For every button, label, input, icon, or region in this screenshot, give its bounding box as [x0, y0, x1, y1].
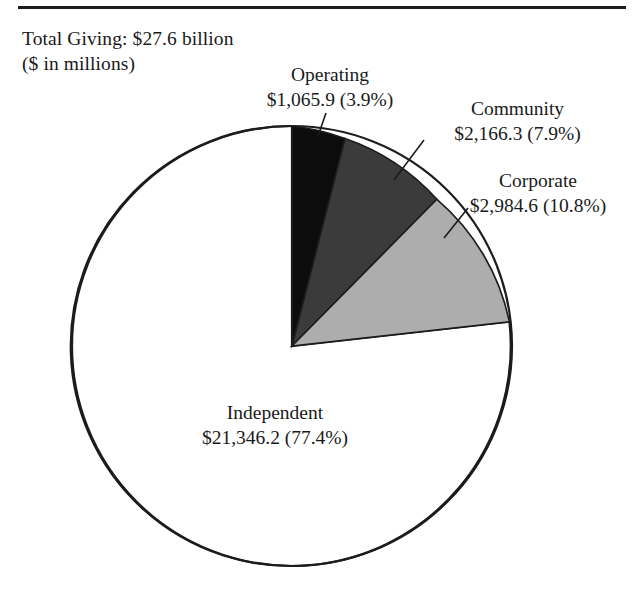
slice-label-corporate-name: Corporate: [438, 168, 638, 193]
slice-label-community-value: $2,166.3 (7.9%): [415, 121, 620, 146]
slice-label-operating-value: $1,065.9 (3.9%): [245, 87, 415, 112]
slice-label-independent-name: Independent: [160, 400, 390, 425]
slice-label-corporate: Corporate $2,984.6 (10.8%): [438, 168, 638, 218]
slice-label-community-name: Community: [415, 96, 620, 121]
slice-label-independent: Independent $21,346.2 (77.4%): [160, 400, 390, 450]
slice-label-operating: Operating $1,065.9 (3.9%): [245, 62, 415, 112]
chart-page: Total Giving: $27.6 billion ($ in millio…: [0, 0, 642, 609]
slice-label-community: Community $2,166.3 (7.9%): [415, 96, 620, 146]
slice-label-corporate-value: $2,984.6 (10.8%): [438, 193, 638, 218]
slice-label-operating-name: Operating: [245, 62, 415, 87]
slice-label-independent-value: $21,346.2 (77.4%): [160, 425, 390, 450]
